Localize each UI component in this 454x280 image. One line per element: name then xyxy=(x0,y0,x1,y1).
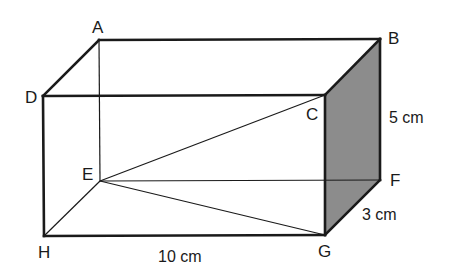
dimension-width-label: 3 cm xyxy=(362,206,397,223)
cuboid-svg: A B C D E F G H 5 cm 10 cm 3 cm xyxy=(0,0,454,280)
cuboid-diagram: A B C D E F G H 5 cm 10 cm 3 cm xyxy=(0,0,454,280)
edge-hg xyxy=(44,235,325,236)
edge-ad xyxy=(43,40,99,96)
edge-dh xyxy=(43,96,44,236)
vertex-label-a: A xyxy=(92,18,104,37)
vertex-label-h: H xyxy=(38,243,50,262)
dimension-length-label: 10 cm xyxy=(158,248,202,265)
vertex-label-c: C xyxy=(306,105,318,124)
edge-ab xyxy=(99,39,380,40)
vertex-label-f: F xyxy=(390,171,400,190)
dimension-height-label: 5 cm xyxy=(389,109,424,126)
diagonal-ec xyxy=(100,95,325,181)
vertex-label-g: G xyxy=(318,242,331,261)
vertex-label-e: E xyxy=(82,165,93,184)
vertex-label-b: B xyxy=(388,29,399,48)
edge-dc xyxy=(43,95,325,96)
vertex-label-d: D xyxy=(25,88,37,107)
edge-ae xyxy=(99,40,100,181)
edge-eh xyxy=(44,181,100,236)
diagonal-eg xyxy=(100,181,325,235)
